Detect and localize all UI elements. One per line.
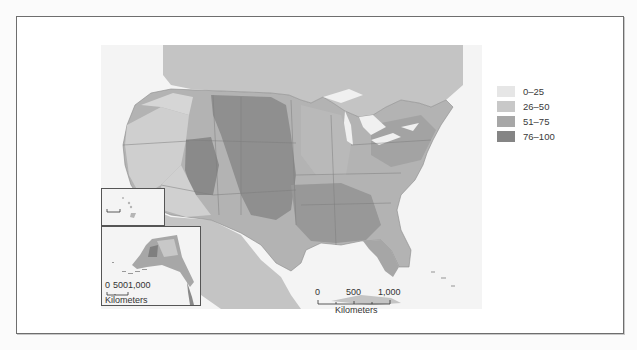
legend-swatch [497,131,515,142]
legend-swatch [497,101,515,112]
hawaii-scale-bar [107,209,120,212]
legend-label: 51–75 [523,116,549,127]
main-scale-tick-1000: 1,000 [378,287,401,297]
main-scale-tick-0: 0 [315,287,320,297]
hawaii-map [102,189,164,225]
main-scale-unit: Kilometers [335,305,378,315]
legend-label: 26–50 [523,101,549,112]
legend-item: 26–50 [497,99,555,114]
alaska-scale-unit: Kilometers [105,295,148,305]
legend-label: 76–100 [523,131,555,142]
alaska-scale-tick-0: 0 [105,280,110,290]
legend-item: 0–25 [497,84,555,99]
legend-swatch [497,86,515,97]
main-scale-tick-500: 500 [346,287,361,297]
map-legend: 0–25 26–50 51–75 76–100 [497,84,555,144]
legend-swatch [497,116,515,127]
alaska-scale-tick-1000: 1,000 [128,280,151,290]
legend-item: 51–75 [497,114,555,129]
alaska-scale-tick-500: 500 [113,280,128,290]
alaska-map [102,227,200,305]
alaska-inset: 0 500 1,000 Kilometers [101,226,201,306]
figure-frame: 0 500 1,000 Kilometers [16,16,624,334]
legend-label: 0–25 [523,86,544,97]
hawaii-inset [101,188,165,226]
legend-item: 76–100 [497,129,555,144]
